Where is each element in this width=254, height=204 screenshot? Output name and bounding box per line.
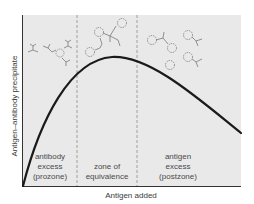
zone-label-postzone: antigen [165, 152, 191, 161]
precipitin-curve-diagram: antibody excess (prozone) zone of equiva… [0, 0, 254, 204]
y-axis-label: Antigen–antibody precipitate [10, 55, 19, 157]
zone-label-prozone-3: (prozone) [33, 172, 68, 181]
zone-label-postzone-3: (postzone) [159, 172, 197, 181]
zone-label-postzone-2: excess [166, 162, 191, 171]
zone-label-prozone-2: excess [38, 162, 63, 171]
zone-label-equivalence: zone of [94, 162, 121, 171]
zone-label-prozone: antibody [35, 152, 65, 161]
zone-label-equivalence-2: equivalence [86, 172, 129, 181]
x-axis-label: Antigen added [105, 191, 157, 200]
